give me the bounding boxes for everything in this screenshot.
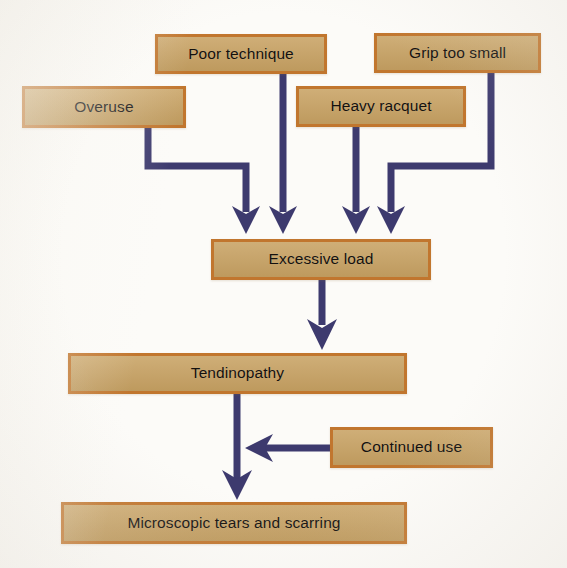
node-overuse[interactable]: Overuse [22,86,186,128]
node-heavy-racquet-label: Heavy racquet [330,98,431,115]
node-overuse-label: Overuse [74,99,133,116]
node-continued-use-label: Continued use [361,439,462,456]
node-excessive-load-label: Excessive load [269,251,374,268]
node-microscopic-tears-and-scarring[interactable]: Microscopic tears and scarring [61,502,407,544]
node-grip-too-small[interactable]: Grip too small [374,33,541,73]
node-heavy-racquet[interactable]: Heavy racquet [296,86,466,127]
flowchart-canvas: Overuse Poor technique Heavy racquet Gri… [0,0,567,568]
edge-overuse-to-excessive-line [148,127,246,212]
node-excessive-load[interactable]: Excessive load [211,239,431,280]
node-tendinopathy[interactable]: Tendinopathy [68,353,407,394]
node-continued-use[interactable]: Continued use [330,427,493,468]
node-poor-technique-label: Poor technique [188,46,294,63]
node-microscopic-tears-and-scarring-label: Microscopic tears and scarring [127,515,340,532]
node-poor-technique[interactable]: Poor technique [155,34,327,74]
node-tendinopathy-label: Tendinopathy [191,365,284,382]
node-grip-too-small-label: Grip too small [409,45,506,62]
